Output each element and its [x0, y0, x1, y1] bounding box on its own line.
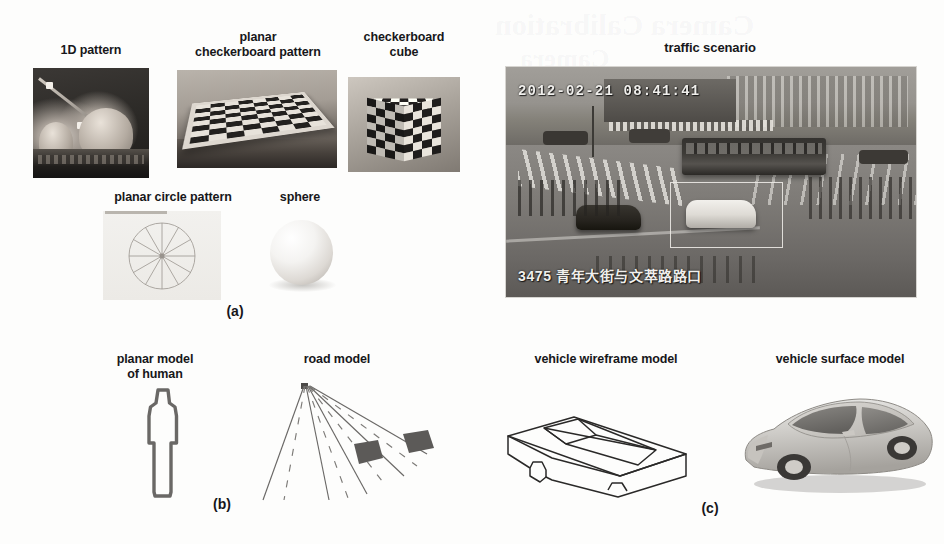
caption-traffic-scenario-text: traffic scenario	[664, 40, 756, 55]
panel-label-b: (b)	[192, 496, 252, 512]
road-vehicle-1	[354, 440, 383, 464]
vehicle-bounding-box	[670, 182, 783, 248]
caption-sphere: sphere	[245, 190, 355, 205]
camera-location-overlay: 3475 青年大街与文萃路路口	[518, 265, 702, 285]
panel-label-c: (c)	[680, 500, 740, 516]
caption-planar-checkerboard-line2: checkerboard pattern	[195, 45, 321, 59]
pedestrian-cluster-right	[809, 177, 912, 218]
panel-label-a-text: (a)	[226, 303, 243, 319]
rear-wheel-rim	[894, 442, 910, 454]
image-1d-pattern	[33, 68, 149, 178]
pedestrian-cluster-left	[518, 180, 625, 217]
human-silhouette-drawing	[128, 386, 200, 502]
road-perspective-drawing	[262, 372, 462, 502]
car-upper-mid	[629, 129, 670, 143]
image-planar-circle-pattern	[103, 211, 221, 300]
sphere-body	[270, 220, 332, 285]
caption-planar-checkerboard-pattern: planar checkerboard pattern	[168, 30, 348, 61]
road-vehicle-2	[403, 430, 434, 453]
caption-road-model: road model	[272, 352, 402, 367]
caption-checkerboard-cube-line2: cube	[390, 45, 419, 59]
caption-planar-checkerboard-line1: planar	[240, 30, 277, 44]
vehicle-surface-drawing	[732, 372, 942, 502]
circle-pattern-drawing	[103, 211, 221, 300]
panel-label-a: (a)	[205, 303, 265, 319]
caption-checkerboard-cube: checkerboard cube	[340, 30, 468, 61]
caption-planar-circle-pattern-text: planar circle pattern	[114, 190, 231, 204]
bleed-through-text-line1: Camera Calibration	[495, 8, 754, 42]
caption-1d-pattern-text: 1D pattern	[61, 43, 122, 57]
panel-label-b-text: (b)	[213, 496, 231, 512]
rod-marker-1	[46, 82, 53, 89]
bus-windows	[686, 143, 821, 155]
image-sphere	[262, 213, 344, 299]
caption-planar-model-of-human: planar model of human	[85, 352, 225, 383]
vehicle-wireframe-drawing	[500, 378, 710, 508]
image-traffic-scenario: 2012-02-21 08:41:41 3475 青年大街与文萃路路口	[505, 66, 917, 298]
light-pole	[592, 106, 594, 157]
caption-vehicle-wireframe-text: vehicle wireframe model	[535, 352, 678, 366]
caption-1d-pattern: 1D pattern	[28, 43, 154, 58]
panel-label-c-text: (c)	[701, 500, 718, 516]
timestamp-overlay: 2012-02-21 08:41:41	[518, 83, 700, 99]
image-checkerboard-cube	[348, 77, 460, 172]
caption-planar-human-line2: of human	[127, 367, 182, 381]
caption-planar-circle-pattern: planar circle pattern	[78, 190, 268, 205]
caption-vehicle-surface-text: vehicle surface model	[776, 352, 905, 366]
car-right-edge	[859, 150, 908, 164]
caption-sphere-text: sphere	[280, 190, 320, 204]
caption-planar-human-line1: planar model	[117, 352, 194, 366]
caption-road-model-text: road model	[304, 352, 370, 366]
car-upper-left	[543, 131, 588, 145]
front-wheel-rim	[785, 460, 803, 474]
caption-vehicle-surface-model: vehicle surface model	[740, 352, 940, 367]
figure-vehicle-surface-model	[732, 372, 942, 502]
scan-edge-artifact	[105, 211, 166, 214]
figure-planar-model-of-human	[128, 386, 200, 502]
cube-face-right	[404, 97, 441, 161]
cube-face-left	[367, 97, 404, 161]
caption-checkerboard-cube-line1: checkerboard	[364, 30, 445, 44]
figure-vehicle-wireframe-model	[500, 378, 710, 508]
device-base	[33, 149, 149, 178]
vehicle-cast-shadow	[754, 475, 926, 493]
image-planar-checkerboard-pattern	[177, 70, 337, 168]
figure-road-model	[262, 372, 462, 502]
caption-traffic-scenario: traffic scenario	[620, 40, 800, 56]
caption-vehicle-wireframe-model: vehicle wireframe model	[496, 352, 716, 367]
